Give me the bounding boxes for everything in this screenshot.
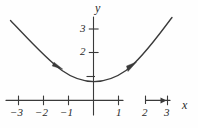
x-tick-label-3: 3 bbox=[164, 107, 170, 118]
x-axis-label: x bbox=[182, 99, 187, 111]
x-tick-label-minus1: −1 bbox=[60, 107, 73, 118]
curve-direction-arrow-right bbox=[127, 62, 137, 72]
curve-direction-arrow-left bbox=[52, 62, 63, 69]
parabola-path bbox=[11, 18, 173, 82]
x-tick-label-minus3: −3 bbox=[10, 107, 23, 118]
parabola-curve bbox=[11, 18, 173, 82]
parabola-figure: −3 −2 −1 1 2 3 3 2 y x bbox=[0, 0, 198, 128]
x-tick-label-1: 1 bbox=[116, 107, 122, 118]
y-tick-label-2: 2 bbox=[80, 46, 86, 57]
y-axis-ticks bbox=[87, 29, 99, 77]
x-tick-label-minus2: −2 bbox=[35, 107, 48, 118]
left-branch-arrowhead-icon bbox=[52, 62, 63, 69]
y-axis-label: y bbox=[95, 2, 100, 14]
right-branch-arrowhead-icon bbox=[127, 62, 137, 72]
y-tick-label-3: 3 bbox=[80, 23, 86, 34]
x-tick-label-2: 2 bbox=[142, 107, 148, 118]
x-axis-arrowhead-icon bbox=[161, 97, 167, 103]
